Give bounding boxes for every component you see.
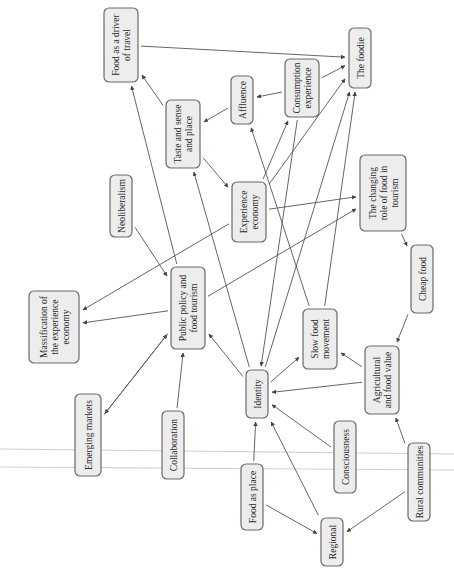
edge-cheapfood-to-agricultural [397,314,408,342]
node-label-line: Affluence [238,81,248,119]
scan-line [0,449,454,454]
node-agricultural: Agriculturaland food value [365,346,399,414]
node-box [166,100,200,168]
edge-foodplace-to-identity [254,422,256,461]
node-rural: Rural communities [408,443,430,521]
node-label-line: Food as place [248,471,258,523]
node-label-line: economy [61,309,71,344]
nodes-layer: Food as a driverof travelThe foodieAfflu… [29,8,433,566]
node-affluence: Affluence [231,76,253,124]
node-label-line: tourism [390,178,400,208]
node-massification: Massification ofthe experienceeconomy [29,291,79,363]
node-label-line: of travel [122,29,132,61]
node-label-line: Massification of [39,295,49,358]
edge-agricultural-to-slowfood [341,353,362,367]
node-label-line: Consumption [292,62,302,113]
edge-taste-to-food_driver [142,75,163,105]
node-label: Collaboration [169,419,179,471]
node-label-line: Taste and sense [173,105,183,164]
node-label-line: The foodie [356,37,366,78]
edge-experience-to-consumption [263,121,288,179]
node-public: Public policy andfood tourism [171,267,205,349]
node-label-line: Public policy and [178,275,188,342]
node-label: Food as place [248,471,258,523]
node-label: Emerging markets [84,400,94,470]
node-label-line: Identity [253,379,263,409]
node-changing: The changingrole of food intourism [360,155,406,231]
node-label: Identity [253,379,263,409]
node-label: Consciousness [341,429,351,485]
node-label-line: experience [303,67,313,108]
edge-rural-to-regional [347,492,405,532]
node-label-line: and food value [383,352,393,408]
edge-changing-to-cheapfood [402,234,407,246]
node-label: Regional [328,524,338,559]
node-label-line: role of food in [379,165,389,220]
node-label-line: Food as a driver [111,13,121,75]
node-label: Cheap food [418,257,428,301]
node-label: Rural communities [415,445,425,518]
node-consciousness: Consciousness [334,421,356,493]
node-box [232,182,266,242]
node-label-line: The changing [368,167,378,219]
edge-neoliberalism-to-public [135,227,167,276]
edge-consumption-to-affluence [257,92,282,97]
node-neoliberalism: Neoliberalism [110,175,132,237]
edge-rural-to-agricultural [396,418,405,443]
node-label-line: and place [184,116,194,152]
node-box [171,267,205,349]
node-label: Public policy andfood tourism [178,275,199,342]
edge-experience-to-massification [83,224,229,310]
concept-map: Food as a driverof travelThe foodieAfflu… [0,0,454,572]
node-label: The foodie [356,37,366,78]
node-label-line: movement [321,319,331,359]
node-foodplace: Food as place [241,464,263,530]
edge-consumption-to-foodie [322,66,345,78]
node-label-line: Cheap food [418,257,428,301]
edge-food_driver-to-foodie [141,46,345,57]
node-emerging: Emerging markets [75,394,101,476]
node-slowfood: Slow foodmovement [303,309,337,369]
edge-experience-to-changing [269,197,356,209]
edge-identity-to-slowfood [271,357,299,381]
node-foodie: The foodie [349,28,371,88]
edge-identity-to-public [209,334,243,376]
node-label: Consumptionexperience [292,62,313,113]
node-label-line: Consciousness [341,429,351,485]
scan-line [0,467,454,470]
node-regional: Regional [321,518,343,566]
node-label-line: food tourism [189,283,199,332]
edge-collaboration-to-public [177,353,183,408]
node-label-line: Slow food [310,319,320,359]
edge-public-to-massification [83,311,168,323]
node-label-line: Agricultural [372,356,382,403]
edge-foodplace-to-regional [266,505,317,534]
node-label-line: Experience [239,191,249,234]
node-label: Neoliberalism [117,178,127,232]
node-box [104,8,138,82]
node-box [365,346,399,414]
node-consumption: Consumptionexperience [285,59,319,117]
node-label-line: Regional [328,524,338,559]
node-label-line: economy [250,194,260,229]
node-label-line: Rural communities [415,445,425,518]
node-label: Slow foodmovement [310,319,331,359]
scan-artifact-lines [0,449,454,470]
edge-public-to-emerging [105,333,168,413]
edge-consumption-to-identity [261,120,297,366]
node-identity: Identity [246,370,268,418]
node-label: Experienceeconomy [239,191,260,234]
node-label: Affluence [238,81,248,119]
edge-agricultural-to-identity [272,382,362,392]
node-label: Agriculturaland food value [372,352,393,408]
node-label-line: Collaboration [169,419,179,471]
node-experience: Experienceeconomy [232,182,266,242]
node-label-line: the experience [50,299,60,354]
node-taste: Taste and senseand place [166,100,200,168]
node-box [303,309,337,369]
node-label-line: Emerging markets [84,400,94,470]
node-box [285,59,319,117]
node-food_driver: Food as a driverof travel [104,8,138,82]
edge-affluence-to-taste [204,108,228,122]
node-cheapfood: Cheap food [411,245,433,313]
